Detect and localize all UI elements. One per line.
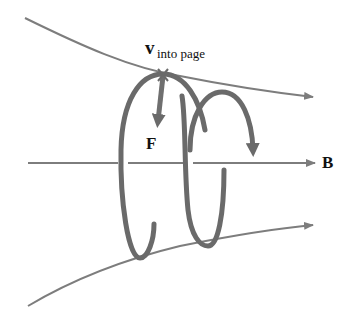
force-arrow <box>158 76 163 121</box>
force-label: F <box>146 134 156 154</box>
field-line-bottom <box>28 225 313 306</box>
velocity-label: v <box>145 37 155 59</box>
velocity-subscript-label: into page <box>157 46 205 62</box>
field-label: B <box>322 153 333 173</box>
helix-path <box>121 74 253 258</box>
